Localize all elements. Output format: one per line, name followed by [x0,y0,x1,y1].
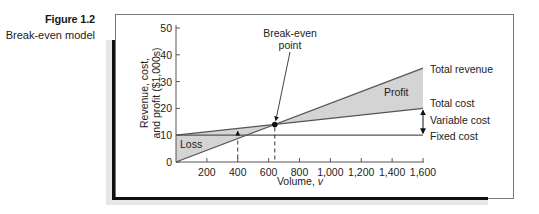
svg-text:10: 10 [160,129,172,141]
profit-label: Profit [384,86,409,98]
break-even-label: Break-even [263,27,317,39]
svg-text:200: 200 [198,166,216,178]
svg-text:50: 50 [160,22,172,34]
total-revenue-line [176,68,423,162]
y-axis-title-line2: and profit ($1,000s) [150,47,162,138]
svg-text:400: 400 [229,166,247,178]
svg-text:20: 20 [160,102,172,114]
svg-text:40: 40 [160,49,172,61]
total-cost-label: Total cost [430,97,474,109]
fixed-cost-label: Fixed cost [430,130,478,142]
svg-text:30: 30 [160,76,172,88]
break-even-label-line2: point [279,39,302,51]
loss-label: Loss [180,138,202,150]
x-axis-title: Volume, v [277,175,324,187]
svg-text:1,200: 1,200 [348,166,374,178]
y-axis-title: Revenue, cost, [138,58,150,128]
svg-text:600: 600 [260,166,278,178]
total-cost-line [176,108,423,135]
variable-cost-label: Variable cost [430,114,490,126]
break-even-arrow-icon [276,52,290,120]
total-revenue-label: Total revenue [430,63,493,75]
svg-text:1,600: 1,600 [410,166,436,178]
svg-text:0: 0 [166,156,172,168]
break-even-point-marker [272,122,278,128]
svg-text:1,400: 1,400 [379,166,405,178]
break-even-chart: 01020304050 2004006008001,0001,2001,4001… [0,0,539,214]
